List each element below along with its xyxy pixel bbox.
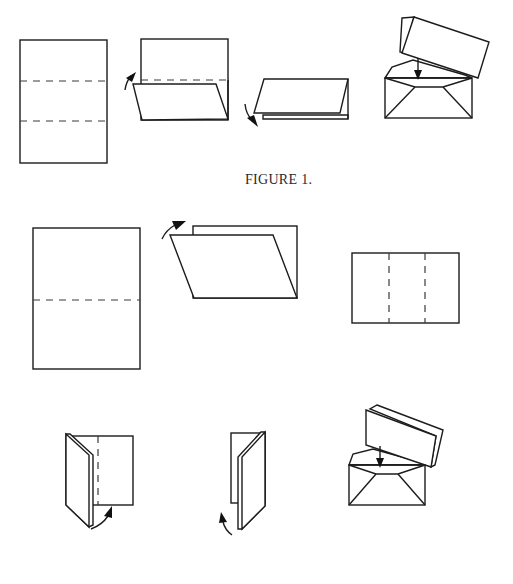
fig1-step1-sheet [20,40,107,163]
curved-up-arrow-icon [91,506,112,529]
envelope-body [385,78,472,118]
figure-2 [33,221,459,535]
fig2-step6-envelope [349,405,443,505]
sheet-outline [20,40,107,163]
diagram-canvas [0,0,513,584]
folding-instructions-diagram: FIGURE 1. [0,0,513,584]
fig1-step3-fold-down [245,79,348,127]
fig1-step4-envelope [385,17,489,118]
sheet-outline [33,228,140,369]
fig2-step4-fold-left [66,434,133,529]
folded-flap [133,84,228,120]
fig2-step3-sheet [352,253,459,323]
fig2-step5-fold-right [219,432,265,535]
sheet-outline [352,253,459,323]
curved-up-arrow-icon [219,512,232,535]
fig2-step2-fold-half [162,221,297,298]
folded-top [254,79,348,113]
figure-1-caption: FIGURE 1. [245,172,312,188]
figure-1 [20,17,489,163]
envelope-body [349,465,425,505]
sheet-back [263,115,348,119]
fig2-step1-sheet [33,228,140,369]
fig1-step2-fold-up [125,39,228,120]
